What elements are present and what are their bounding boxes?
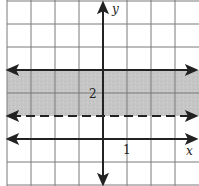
y-axis-label: y	[112, 3, 119, 15]
graph: y x 1 2	[0, 0, 199, 186]
x-axis-label: x	[186, 145, 193, 157]
x-tick-label: 1	[123, 144, 131, 156]
coordinate-plane	[0, 0, 199, 186]
y-tick-label: 2	[89, 88, 97, 100]
